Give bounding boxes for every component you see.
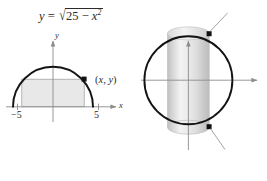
axis-label-x-left: x (119, 101, 123, 110)
right-figure-cylinder-in-circle: (x, √r2 − x2 ) (x, − √r2 − x2 ) x y (133, 0, 267, 181)
equation-equals: = (48, 9, 55, 23)
leader-line-top (210, 13, 228, 32)
radicand-first: 25 (66, 9, 79, 23)
equation-lhs: y (39, 9, 45, 23)
right-figure-graphic (133, 0, 267, 181)
left-figure-graphic (0, 0, 133, 181)
point-marker-top (207, 31, 212, 36)
left-figure-semicircle: y = √25 − x2 (x, y) x y −5 5 (0, 0, 133, 181)
equation-radical: √25 − x2 (58, 8, 103, 22)
equation-label: y = √25 − x2 (39, 8, 103, 22)
radicand-exponent: 2 (97, 8, 101, 17)
equation-radicand: 25 − x2 (65, 8, 103, 22)
paren-close: ) (113, 74, 117, 85)
radical-sign-icon: √ (59, 8, 65, 23)
tick-label-pos5: 5 (94, 109, 99, 120)
radicand-operator: − (82, 9, 89, 23)
figure-pair: y = √25 − x2 (x, y) x y −5 5 (0, 0, 267, 181)
point-label-xy: (x, y) (95, 75, 117, 86)
axis-label-y-left: y (55, 31, 59, 40)
tick-label-neg5: −5 (11, 109, 22, 120)
point-marker-xy (82, 77, 87, 82)
leader-line-bottom (210, 129, 225, 150)
